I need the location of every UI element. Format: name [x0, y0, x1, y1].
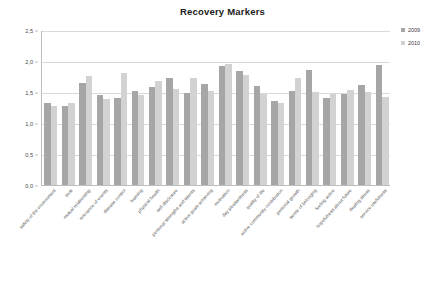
bar-group: [236, 31, 249, 185]
bar-2010: [121, 73, 127, 185]
y-axis: 2,52,01,51,00,50,0: [0, 31, 38, 186]
bar-2010: [138, 95, 144, 185]
bar-2010: [382, 97, 388, 185]
bar-2010: [190, 78, 196, 185]
bar-group: [166, 31, 179, 185]
legend-label: 2009: [408, 27, 420, 33]
bar-group: [149, 31, 162, 185]
y-tick-mark: [35, 31, 38, 32]
bar-group: [289, 31, 302, 185]
y-tick-label: 2,0: [25, 59, 33, 65]
bar-group: [114, 31, 127, 185]
bar-group: [323, 31, 336, 185]
bar-group: [201, 31, 214, 185]
y-tick-label: 2,5: [25, 28, 33, 34]
chart-legend: 20092010: [401, 27, 443, 53]
x-tick-label: safety of the environment: [18, 188, 56, 230]
y-tick-mark: [35, 62, 38, 63]
y-tick-mark: [35, 186, 38, 187]
bars-layer: [42, 31, 390, 185]
legend-item[interactable]: 2009: [401, 27, 443, 33]
recovery-markers-chart: Recovery Markers 2,52,01,51,00,50,0 safe…: [0, 0, 445, 287]
bar-2010: [51, 106, 57, 185]
y-tick-mark: [35, 93, 38, 94]
bar-2010: [347, 90, 353, 185]
bar-2010: [278, 103, 284, 185]
bar-group: [62, 31, 75, 185]
x-tick-label: active goals achieving: [180, 188, 214, 225]
bar-group: [341, 31, 354, 185]
bar-group: [219, 31, 232, 185]
bar-group: [184, 31, 197, 185]
bar-2010: [330, 94, 336, 185]
y-tick-mark: [35, 124, 38, 125]
bar-group: [358, 31, 371, 185]
chart-title: Recovery Markers: [0, 6, 445, 17]
x-tick-label: trust: [64, 188, 74, 198]
bar-2010: [208, 91, 214, 185]
bar-group: [97, 31, 110, 185]
bar-group: [376, 31, 389, 185]
legend-item[interactable]: 2010: [401, 40, 443, 46]
bar-2010: [312, 92, 318, 185]
bar-2010: [225, 64, 231, 185]
bar-group: [306, 31, 319, 185]
bar-2010: [295, 78, 301, 185]
bar-group: [44, 31, 57, 185]
bar-2010: [86, 76, 92, 185]
bar-2010: [103, 99, 109, 185]
bar-group: [79, 31, 92, 185]
legend-label: 2010: [408, 40, 420, 46]
bar-2010: [260, 94, 266, 185]
y-tick-label: 0,5: [25, 152, 33, 158]
bar-2010: [173, 89, 179, 185]
bar-2010: [365, 92, 371, 185]
y-tick-mark: [35, 155, 38, 156]
bar-2010: [243, 75, 249, 185]
legend-swatch-icon: [401, 28, 405, 32]
bar-group: [254, 31, 267, 185]
legend-swatch-icon: [401, 41, 405, 45]
x-axis: safety of the environmenttrustmutual rel…: [41, 188, 390, 283]
bar-2010: [68, 103, 74, 185]
bar-group: [132, 31, 145, 185]
y-tick-label: 1,0: [25, 121, 33, 127]
y-tick-label: 0,0: [25, 183, 33, 189]
x-tick-label: motivation: [213, 188, 231, 207]
bar-group: [271, 31, 284, 185]
plot-area: [41, 31, 390, 186]
y-tick-label: 1,5: [25, 90, 33, 96]
x-tick-label: learning: [129, 188, 144, 204]
bar-2010: [155, 81, 161, 185]
